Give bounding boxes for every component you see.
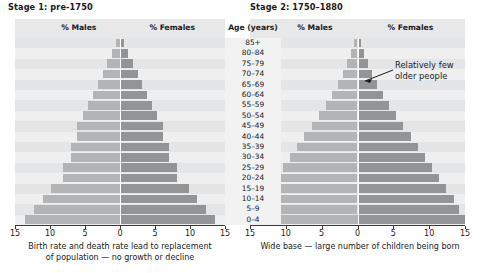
- x-axis-tick-label: 10: [424, 229, 434, 238]
- bar-male: [88, 101, 120, 110]
- bar-female: [358, 143, 418, 152]
- bar-male: [51, 184, 120, 193]
- bar-female: [120, 195, 197, 204]
- age-axis-label: 20–24: [225, 173, 281, 183]
- bar-male: [276, 174, 358, 183]
- bar-male: [77, 122, 120, 131]
- age-axis-header: Age (years): [225, 23, 281, 32]
- x-axis-tick-label: 15: [460, 229, 470, 238]
- age-axis-label: 25–29: [225, 163, 281, 173]
- bar-male: [107, 59, 120, 68]
- caption-line-2: of population — no growth or decline: [46, 253, 194, 262]
- bar-male: [332, 91, 357, 100]
- bar-male: [103, 70, 121, 79]
- age-axis-label: 50–54: [225, 111, 281, 121]
- caption-stage-1: Birth rate and death rate lead to replac…: [4, 242, 236, 263]
- bar-male: [304, 132, 357, 141]
- bar-female: [120, 205, 206, 214]
- age-axis-label: 15–19: [225, 184, 281, 194]
- x-axis-tick-label: 10: [185, 229, 195, 238]
- bar-male: [77, 132, 120, 141]
- age-axis-label: 80–84: [225, 48, 281, 58]
- bar-male: [269, 184, 358, 193]
- age-axis-label: 45–49: [225, 121, 281, 131]
- bar-female: [358, 153, 425, 162]
- bar-male: [25, 215, 120, 224]
- x-axis-tick-label: 5: [391, 229, 396, 238]
- bar-female: [358, 215, 466, 224]
- bar-female: [358, 91, 383, 100]
- age-axis-label: 10–14: [225, 194, 281, 204]
- bar-male: [326, 101, 358, 110]
- annotation-line-1: Relatively few: [395, 60, 454, 70]
- bar-female: [358, 132, 411, 141]
- bar-female: [358, 101, 390, 110]
- bar-female: [120, 91, 147, 100]
- x-axis-tick-label: 10: [45, 229, 55, 238]
- bar-female: [358, 205, 460, 214]
- x-axis-tick-label: 15: [220, 229, 230, 238]
- bar-male: [112, 49, 120, 58]
- age-axis-label: 40–44: [225, 132, 281, 142]
- panel-stage-1: Stage 1: pre-1750 % Males % Females 1510…: [0, 0, 240, 273]
- zero-axis-line-stage-2: [358, 38, 359, 225]
- bar-female: [120, 59, 133, 68]
- bar-male: [71, 153, 120, 162]
- x-axis-tick-label: 15: [245, 229, 255, 238]
- age-axis-label: 70–74: [225, 69, 281, 79]
- bar-male: [319, 111, 358, 120]
- panel-title-stage-2: Stage 2: 1750–1880: [250, 2, 343, 12]
- bar-male: [71, 143, 120, 152]
- plot-area-stage-1: % Males % Females: [15, 19, 225, 225]
- bar-female: [120, 153, 169, 162]
- annotation-leader-line: [355, 68, 395, 84]
- age-axis-label: 65–69: [225, 80, 281, 90]
- x-axis-tick-label: 0: [355, 229, 360, 238]
- annotation-line-2: older people: [395, 71, 447, 81]
- bar-male: [43, 195, 120, 204]
- zero-axis-line-stage-1: [120, 38, 121, 225]
- bar-female: [358, 184, 447, 193]
- bar-female: [120, 111, 157, 120]
- bar-male: [283, 163, 358, 172]
- x-axis-tick-label: 15: [10, 229, 20, 238]
- plot-area-stage-2: % Males % Females: [250, 19, 465, 225]
- annotation-few-older-people: Relatively few older people: [395, 60, 454, 81]
- bar-female: [358, 122, 404, 131]
- age-axis-label: 35–39: [225, 142, 281, 152]
- caption-line-1: Wide base — large number of children bei…: [260, 242, 459, 251]
- age-axis-label: 85+: [225, 38, 281, 48]
- bar-female: [120, 174, 177, 183]
- panel-title-stage-1: Stage 1: pre-1750: [8, 2, 93, 12]
- bar-female: [358, 195, 454, 204]
- bar-male: [347, 59, 357, 68]
- x-axis-tick-label: 5: [82, 229, 87, 238]
- bar-female: [358, 59, 368, 68]
- age-axis-label: 75–79: [225, 59, 281, 69]
- bar-female: [120, 101, 152, 110]
- x-axis-tick-label: 0: [117, 229, 122, 238]
- caption-line-1: Birth rate and death rate lead to replac…: [28, 242, 211, 251]
- age-axis-label: 55–59: [225, 100, 281, 110]
- bar-female: [358, 163, 433, 172]
- age-axis-label: 60–64: [225, 90, 281, 100]
- bar-female: [120, 80, 142, 89]
- bar-female: [120, 163, 177, 172]
- age-axis-column: Age (years) 85+80–8475–7970–7465–6960–64…: [225, 19, 281, 225]
- caption-stage-2: Wide base — large number of children bei…: [244, 242, 476, 253]
- bar-male: [34, 205, 120, 214]
- bar-male: [290, 153, 357, 162]
- population-pyramid-figure: Stage 1: pre-1750 % Males % Females 1510…: [0, 0, 480, 273]
- females-column-label-stage-1: % Females: [149, 23, 195, 32]
- bar-female: [120, 132, 163, 141]
- bar-male: [98, 80, 120, 89]
- x-axis-tick-label: 5: [319, 229, 324, 238]
- bar-male: [312, 122, 358, 131]
- bar-female: [120, 122, 163, 131]
- bar-male: [83, 111, 120, 120]
- age-axis-label: 30–34: [225, 152, 281, 162]
- bar-female: [120, 215, 215, 224]
- bar-female: [120, 143, 169, 152]
- bar-male: [63, 163, 120, 172]
- bar-female: [120, 70, 138, 79]
